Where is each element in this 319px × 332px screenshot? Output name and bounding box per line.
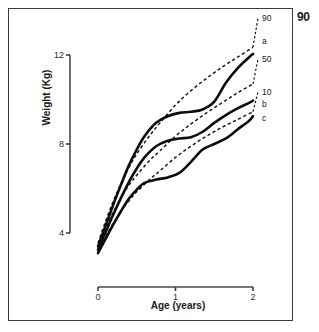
curve-a xyxy=(98,54,253,246)
x-tick-label: 0 xyxy=(91,292,105,302)
page-number: 90 xyxy=(297,10,310,24)
leader-10 xyxy=(253,92,258,112)
axes-group xyxy=(66,55,253,291)
y-axis-title: Weight (Kg) xyxy=(41,48,52,148)
label-leader-lines xyxy=(253,18,258,112)
series-label-10: 10 xyxy=(262,87,271,97)
y-tick-label: 8 xyxy=(34,139,64,149)
leader-90 xyxy=(253,18,258,47)
data-curves-group xyxy=(98,47,253,253)
leader-50 xyxy=(253,59,258,84)
x-tick-label: 1 xyxy=(169,292,183,302)
series-label-90: 90 xyxy=(262,13,271,23)
series-label-c: c xyxy=(262,113,266,123)
series-label-a: a xyxy=(262,36,267,46)
y-tick-label: 12 xyxy=(34,50,64,60)
x-tick-label: 2 xyxy=(246,292,260,302)
series-label-b: b xyxy=(262,99,267,109)
y-tick-label: 4 xyxy=(34,228,64,238)
series-label-50: 50 xyxy=(262,54,271,64)
curve-50 xyxy=(98,84,253,248)
